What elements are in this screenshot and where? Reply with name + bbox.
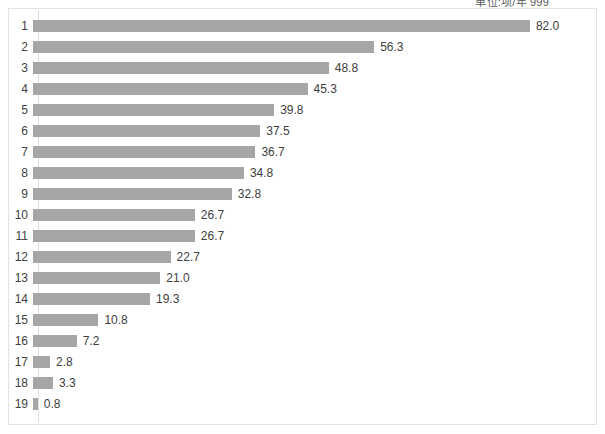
bar-row: 932.8 xyxy=(9,183,596,204)
bar-row: 1222.7 xyxy=(9,246,596,267)
bar-row: 172.8 xyxy=(9,351,596,372)
bar-value-label: 19.3 xyxy=(156,293,179,305)
bar xyxy=(33,293,150,305)
bar-value-label: 10.8 xyxy=(104,314,127,326)
category-label: 3 xyxy=(9,62,33,74)
bar xyxy=(33,41,374,53)
bar-row: 182.0 xyxy=(9,15,596,36)
bar-track: 39.8 xyxy=(33,99,596,120)
bar-track: 22.7 xyxy=(33,246,596,267)
bar-row: 736.7 xyxy=(9,141,596,162)
bar-track: 36.7 xyxy=(33,141,596,162)
bar-row: 1126.7 xyxy=(9,225,596,246)
category-label: 12 xyxy=(9,251,33,263)
bar-track: 3.3 xyxy=(33,372,596,393)
bar xyxy=(33,230,195,242)
bar-value-label: 36.7 xyxy=(261,146,284,158)
bar-value-label: 0.8 xyxy=(44,398,61,410)
bar xyxy=(33,83,308,95)
bar-chart: 单位:项/年 999 182.0256.3348.8445.3539.8637.… xyxy=(0,0,605,434)
bar-track: 82.0 xyxy=(33,15,596,36)
bar xyxy=(33,125,260,137)
bar-row: 256.3 xyxy=(9,36,596,57)
bar-value-label: 3.3 xyxy=(59,377,76,389)
category-label: 11 xyxy=(9,230,33,242)
bar-track: 0.8 xyxy=(33,393,596,414)
category-label: 4 xyxy=(9,83,33,95)
plot-area: 182.0256.3348.8445.3539.8637.5736.7834.8… xyxy=(8,8,597,425)
bar-track: 32.8 xyxy=(33,183,596,204)
bar-track: 56.3 xyxy=(33,36,596,57)
bar-row: 1419.3 xyxy=(9,288,596,309)
category-label: 7 xyxy=(9,146,33,158)
bar xyxy=(33,146,255,158)
category-label: 1 xyxy=(9,20,33,32)
bar-row: 190.8 xyxy=(9,393,596,414)
category-label: 9 xyxy=(9,188,33,200)
bar xyxy=(33,62,329,74)
bar-value-label: 48.8 xyxy=(335,62,358,74)
bar-value-label: 34.8 xyxy=(250,167,273,179)
bar xyxy=(33,356,50,368)
bar-track: 21.0 xyxy=(33,267,596,288)
bar-row: 167.2 xyxy=(9,330,596,351)
bar-track: 34.8 xyxy=(33,162,596,183)
bar-track: 19.3 xyxy=(33,288,596,309)
bar-row: 539.8 xyxy=(9,99,596,120)
category-label: 17 xyxy=(9,356,33,368)
category-label: 6 xyxy=(9,125,33,137)
category-label: 13 xyxy=(9,272,33,284)
bar-track: 45.3 xyxy=(33,78,596,99)
bar xyxy=(33,398,38,410)
bar xyxy=(33,167,244,179)
bar-track: 7.2 xyxy=(33,330,596,351)
bar-value-label: 22.7 xyxy=(177,251,200,263)
bar xyxy=(33,188,232,200)
bar-value-label: 32.8 xyxy=(238,188,261,200)
bar xyxy=(33,272,160,284)
bar-value-label: 26.7 xyxy=(201,209,224,221)
bar-row: 1321.0 xyxy=(9,267,596,288)
bar xyxy=(33,209,195,221)
bar-value-label: 45.3 xyxy=(314,83,337,95)
category-label: 8 xyxy=(9,167,33,179)
bar xyxy=(33,104,274,116)
bar-row: 834.8 xyxy=(9,162,596,183)
bar-row: 445.3 xyxy=(9,78,596,99)
bar-value-label: 21.0 xyxy=(166,272,189,284)
category-label: 10 xyxy=(9,209,33,221)
bar-value-label: 7.2 xyxy=(83,335,100,347)
category-label: 19 xyxy=(9,398,33,410)
bar-track: 26.7 xyxy=(33,204,596,225)
bar-row-list: 182.0256.3348.8445.3539.8637.5736.7834.8… xyxy=(9,9,596,424)
bar xyxy=(33,314,98,326)
bar-row: 637.5 xyxy=(9,120,596,141)
bar-row: 1026.7 xyxy=(9,204,596,225)
bar-row: 348.8 xyxy=(9,57,596,78)
bar-row: 183.3 xyxy=(9,372,596,393)
bar-track: 10.8 xyxy=(33,309,596,330)
category-label: 5 xyxy=(9,104,33,116)
bar-value-label: 2.8 xyxy=(56,356,73,368)
category-label: 16 xyxy=(9,335,33,347)
bar-track: 2.8 xyxy=(33,351,596,372)
bar-value-label: 82.0 xyxy=(536,20,559,32)
bar xyxy=(33,20,530,32)
category-label: 2 xyxy=(9,41,33,53)
category-label: 18 xyxy=(9,377,33,389)
bar-value-label: 56.3 xyxy=(380,41,403,53)
category-label: 14 xyxy=(9,293,33,305)
bar-value-label: 37.5 xyxy=(266,125,289,137)
bar-track: 26.7 xyxy=(33,225,596,246)
bar xyxy=(33,377,53,389)
bar-value-label: 39.8 xyxy=(280,104,303,116)
bar-track: 37.5 xyxy=(33,120,596,141)
category-label: 15 xyxy=(9,314,33,326)
bar-value-label: 26.7 xyxy=(201,230,224,242)
bar xyxy=(33,251,171,263)
bar-row: 1510.8 xyxy=(9,309,596,330)
bar xyxy=(33,335,77,347)
bar-track: 48.8 xyxy=(33,57,596,78)
